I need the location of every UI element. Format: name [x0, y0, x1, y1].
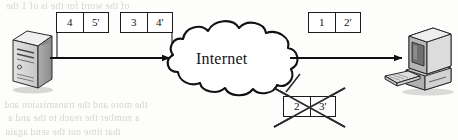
packet-seq-field: 4 [57, 13, 83, 32]
workstation-icon [385, 28, 454, 96]
packet-seq-field: 3 [121, 13, 147, 32]
packet-box-2-3-lost[interactable]: 2 3' [283, 96, 336, 117]
network-packet-loss-figure: of the word for the is of 1 the the more… [0, 0, 458, 140]
packet-ack-field: 3' [310, 97, 336, 116]
cloud-label: Internet [196, 50, 247, 68]
packet-box-1-2[interactable]: 1 2' [308, 12, 361, 33]
packet-ack-field: 2' [335, 13, 361, 32]
packet-seq-field: 1 [309, 13, 335, 32]
packet-seq-field: 2 [284, 97, 310, 116]
packet-leader-lines [57, 33, 172, 58]
server-icon [13, 31, 53, 93]
packet-ack-field: 4' [147, 13, 173, 32]
packet-box-4-5[interactable]: 4 5' [56, 12, 109, 33]
packet-box-3-4[interactable]: 3 4' [120, 12, 173, 33]
packet-ack-field: 5' [83, 13, 109, 32]
